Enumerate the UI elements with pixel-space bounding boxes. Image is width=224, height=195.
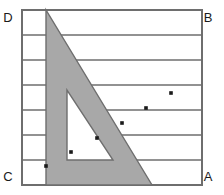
geometry-figure: D B C A bbox=[0, 0, 224, 195]
figure-canvas: D B C A bbox=[0, 0, 224, 195]
dot-6 bbox=[44, 164, 48, 168]
dot-2 bbox=[144, 106, 148, 110]
corner-label-B: B bbox=[204, 10, 213, 25]
corner-label-C: C bbox=[3, 169, 12, 184]
corner-label-D: D bbox=[3, 10, 12, 25]
dot-5 bbox=[69, 150, 73, 154]
dot-1 bbox=[169, 91, 173, 95]
dot-4 bbox=[95, 136, 99, 140]
corner-label-A: A bbox=[204, 169, 213, 184]
dot-3 bbox=[120, 121, 124, 125]
